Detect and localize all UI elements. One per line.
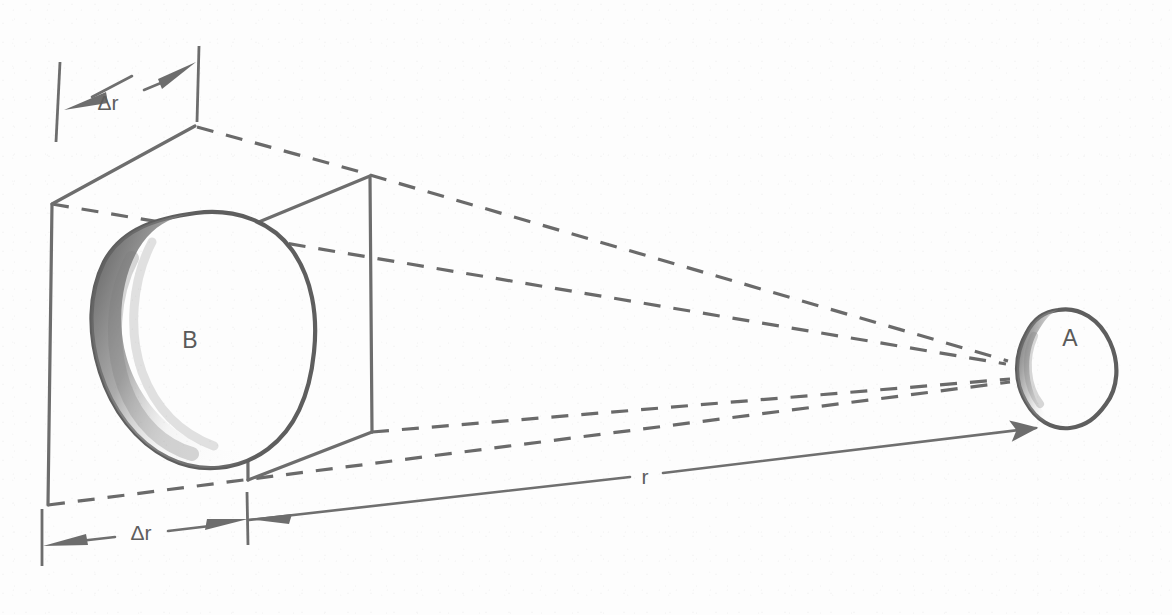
inner-box-right-edge <box>370 176 372 432</box>
box-top-right-edge <box>197 127 368 174</box>
delta-r-bottom-tick-right <box>247 492 248 545</box>
delta-r-bottom-leader-right <box>168 526 210 531</box>
figure-root: B A r <box>0 0 1172 615</box>
object-a-label: A <box>1062 325 1078 351</box>
r-label: r <box>642 465 649 488</box>
delta-r-top-tick-right <box>197 46 199 122</box>
r-distance-measure: r <box>247 428 1036 524</box>
delta-r-bottom-arrowhead-right <box>205 519 248 530</box>
r-arrowhead-left <box>247 514 292 524</box>
delta-r-top-label: Δr <box>97 91 118 114</box>
delta-r-bottom-label: Δr <box>130 521 151 544</box>
box-left-edge <box>48 204 52 505</box>
delta-r-bottom-measure: Δr <box>42 492 248 566</box>
object-b-label: B <box>182 327 198 353</box>
diagram-canvas: B A r <box>0 0 1172 615</box>
inner-box-top-edge <box>247 176 370 227</box>
delta-r-top-measure: Δr <box>56 46 199 142</box>
box-top-left-edge <box>52 126 195 204</box>
object-a: A <box>1017 309 1116 428</box>
delta-r-top-tick-left <box>56 62 60 142</box>
sight-line-top-back <box>370 175 1008 361</box>
sight-line-bottom-back <box>372 379 1010 432</box>
delta-r-top-arrowhead-right <box>158 62 196 89</box>
object-b: B <box>91 212 315 468</box>
r-line-right <box>663 428 1036 473</box>
delta-r-bottom-arrowhead-left <box>43 534 88 546</box>
r-line-left <box>249 477 630 520</box>
